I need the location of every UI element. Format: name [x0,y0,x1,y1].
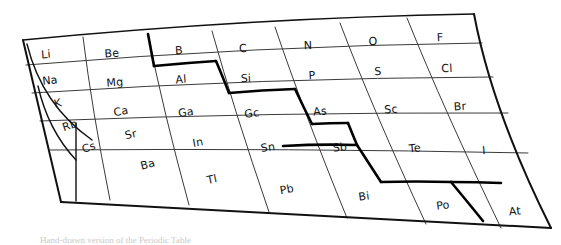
cell-Ca: Ca [112,104,129,119]
cell-B: B [175,44,183,57]
cell-At: At [508,204,522,218]
paper-background [0,0,561,245]
cell-F: F [436,31,443,44]
cell-Si: Si [240,72,251,86]
cell-O: O [368,35,378,48]
cell-As: As [313,104,328,118]
cell-Bi: Bi [358,189,371,203]
cell-Li: Li [41,48,52,62]
stair-under-Te [381,182,451,183]
stair-top-of-At [451,182,501,183]
stair-under-Ge [312,123,348,124]
cell-Br: Br [453,100,467,114]
cell-Te: Te [407,141,421,155]
cell-Cl: Cl [441,62,453,76]
cell-Pb: Pb [279,182,295,197]
cell-Sb: Sb [332,140,348,155]
cell-C: C [239,42,248,55]
cell-Be: Be [104,47,120,61]
cell-S: S [374,65,382,78]
cell-Al: Al [175,73,187,87]
cell-Na: Na [42,73,59,88]
cell-Ga: Ga [177,105,194,120]
figure-caption: Hand-drawn version of the Periodic Table [40,233,460,245]
periodic-table-figure: Li Be B C N O F Na Mg Al Si P S Cl K Ca … [0,0,561,245]
cell-In: In [192,135,205,150]
cell-Mg: Mg [106,75,124,89]
cell-P: P [308,69,316,82]
cell-Po: Po [436,198,451,213]
cell-N: N [303,39,312,52]
cell-Ge: Gc [244,106,260,120]
cell-Sn: Sn [260,140,276,155]
cell-Se: Sc [384,103,398,117]
